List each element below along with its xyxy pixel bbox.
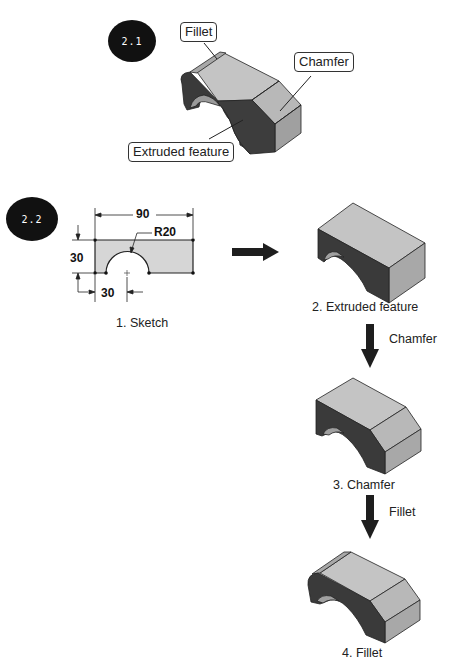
caption-chamfer: 3. Chamfer (333, 478, 395, 492)
figure-2-1-part (181, 52, 301, 154)
arrow-down-icon (361, 495, 379, 539)
dimension-offset: 30 (101, 286, 114, 300)
callout-chamfer-label: Chamfer (299, 54, 349, 69)
sketch-profile (93, 238, 195, 276)
arrow-right-icon (232, 243, 279, 261)
caption-sketch: 1. Sketch (116, 316, 168, 330)
caption-extruded-feature: 2. Extruded feature (312, 300, 418, 314)
arrow-down-icon (361, 324, 379, 368)
part-fillet-chamfer-3d (0, 0, 452, 665)
arrow-label-fillet: Fillet (389, 505, 415, 519)
dimension-radius: R20 (154, 225, 176, 239)
callout-fillet: Fillet (180, 22, 217, 42)
filleted-block-3d (308, 552, 420, 643)
dimension-height: 30 (70, 251, 83, 265)
leader-fillet (204, 43, 217, 59)
chamfered-block-3d (316, 378, 421, 474)
arrow-label-chamfer: Chamfer (389, 332, 437, 346)
callout-chamfer: Chamfer (294, 52, 354, 72)
badge-label: 2.2 (21, 214, 42, 225)
figure-badge-2-2: 2.2 (6, 197, 58, 241)
callout-fillet-label: Fillet (185, 24, 212, 39)
extruded-block-3d (318, 203, 425, 303)
diagram-canvas: 2.1 (0, 0, 452, 665)
callout-extruded-feature: Extruded feature (128, 142, 234, 162)
callout-extruded-label: Extruded feature (133, 144, 229, 159)
caption-fillet: 4. Fillet (342, 646, 382, 660)
dimension-width: 90 (136, 207, 149, 221)
